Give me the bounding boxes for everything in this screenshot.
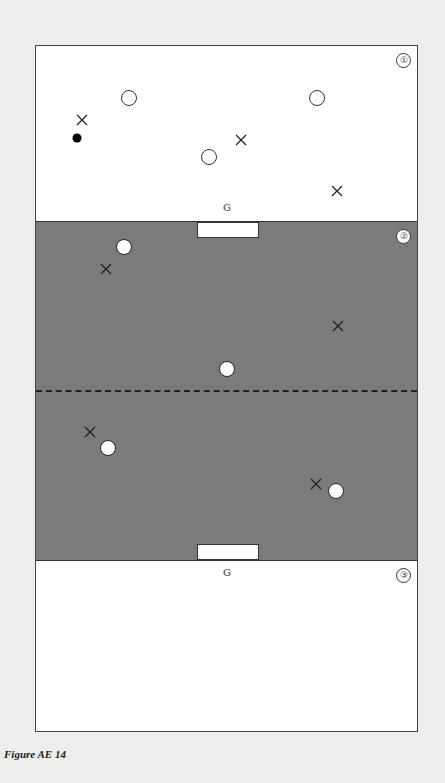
attacker-circle-icon bbox=[309, 90, 325, 106]
zone-1-third: ① G bbox=[36, 46, 417, 221]
attacker-circle-icon bbox=[116, 239, 132, 255]
ball-icon bbox=[73, 134, 82, 143]
defender-cross-icon bbox=[331, 182, 343, 194]
attacker-circle-icon bbox=[328, 483, 344, 499]
zone-3-third: G ③ bbox=[36, 561, 417, 731]
goal-label-top: G bbox=[223, 202, 231, 213]
zone-number-1: ① bbox=[396, 53, 411, 68]
attacker-circle-icon bbox=[100, 440, 116, 456]
defender-cross-icon bbox=[332, 317, 344, 329]
defender-cross-icon bbox=[310, 475, 322, 487]
goal-circle-bottom bbox=[197, 544, 259, 560]
defender-cross-icon bbox=[76, 111, 88, 123]
zone-number-3: ③ bbox=[396, 568, 411, 583]
halfway-dashed-line bbox=[36, 390, 417, 392]
pitch-diagram: ① G ② G ③ bbox=[35, 45, 418, 732]
defender-cross-icon bbox=[235, 131, 247, 143]
zone-2-centre: ② bbox=[36, 221, 417, 561]
attacker-circle-icon bbox=[121, 90, 137, 106]
attacker-circle-icon bbox=[201, 149, 217, 165]
goal-label-bottom: G bbox=[223, 567, 231, 578]
defender-cross-icon bbox=[84, 423, 96, 435]
goal-circle-top bbox=[197, 222, 259, 238]
attacker-circle-icon bbox=[219, 361, 235, 377]
zone-number-2: ② bbox=[396, 229, 411, 244]
figure-caption: Figure AE 14 bbox=[4, 748, 66, 760]
defender-cross-icon bbox=[100, 260, 112, 272]
